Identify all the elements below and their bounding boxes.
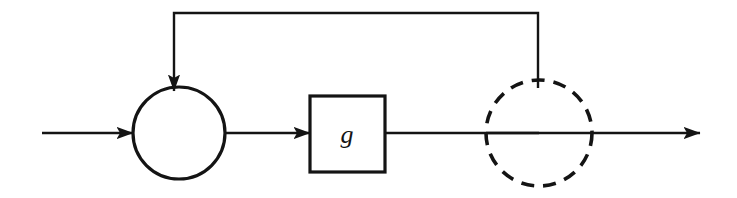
gain-block-label: g [341,120,354,149]
block-diagram-svg: g [0,0,737,198]
diagram-background [0,0,737,198]
diagram-canvas: g [0,0,737,198]
